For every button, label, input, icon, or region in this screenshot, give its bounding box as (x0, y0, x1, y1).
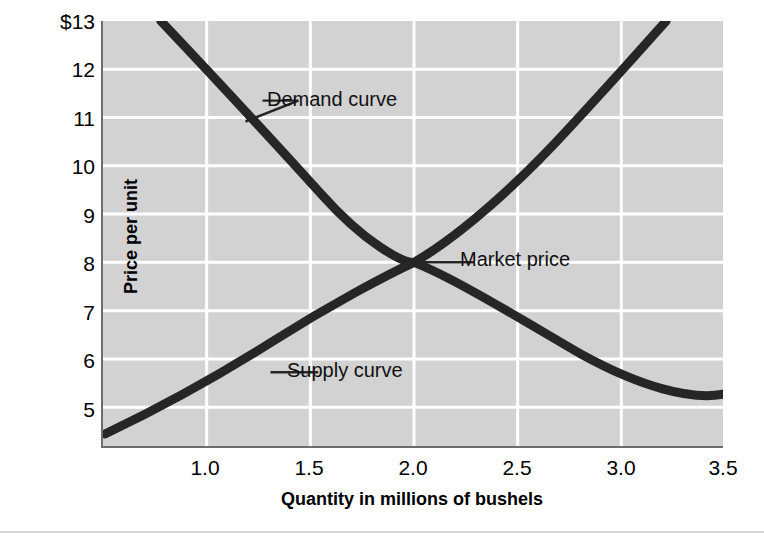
x-tick-3-0: 3.0 (606, 457, 635, 478)
demand-curve-label: Demand curve (267, 89, 397, 109)
bottom-divider (0, 531, 764, 533)
market-price-label: Market price (460, 249, 570, 269)
x-tick-1-5: 1.5 (294, 457, 323, 478)
x-tick-2-0: 2.0 (398, 457, 427, 478)
supply-curve-label: Supply curve (287, 360, 403, 380)
x-tick-1-0: 1.0 (190, 457, 219, 478)
x-axis-title: Quantity in millions of bushels (101, 489, 723, 510)
chart-figure: Price per unit $13 12 11 10 9 8 7 6 5 1.… (0, 0, 764, 538)
x-axis-tick-labels: 1.0 1.5 2.0 2.5 3.0 3.5 (0, 0, 764, 538)
x-tick-2-5: 2.5 (502, 457, 531, 478)
x-tick-3-5: 3.5 (708, 457, 737, 478)
